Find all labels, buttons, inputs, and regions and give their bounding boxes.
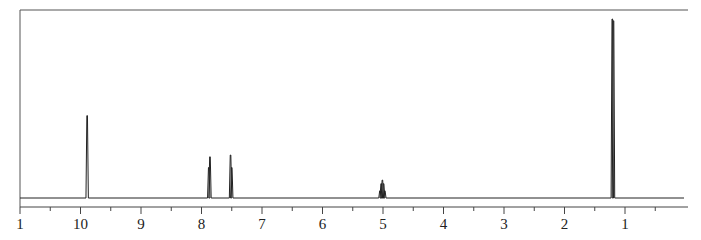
tick-label: 2 xyxy=(561,216,569,232)
x-axis-tick-labels: 110987654321 xyxy=(16,216,629,232)
tick-label: 6 xyxy=(319,216,327,232)
tick-label: 9 xyxy=(137,216,145,232)
tick-label: 1 xyxy=(16,216,24,232)
tick-label: 4 xyxy=(440,216,448,232)
tick-label: 7 xyxy=(258,216,266,232)
tick-label: 8 xyxy=(198,216,206,232)
spectrum-trace xyxy=(20,19,684,198)
x-axis-ticks xyxy=(20,207,655,214)
tick-label: 1 xyxy=(621,216,629,232)
tick-label: 3 xyxy=(500,216,508,232)
nmr-spectrum-chart: 110987654321 xyxy=(0,0,701,240)
tick-label: 5 xyxy=(379,216,387,232)
tick-label: 10 xyxy=(73,216,88,232)
